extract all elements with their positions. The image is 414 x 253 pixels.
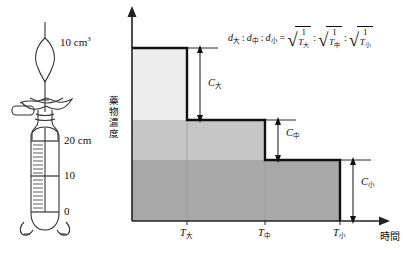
formula-radical-mid: √1T中 [318,26,342,51]
formula-d-mid: d中 [247,32,259,43]
figure-root: 10 cm3 20 cm 10 0 [0,0,414,253]
formula: d大:d中:d小=√1T大:√1T中:√1T小 [228,26,373,51]
y-axis-label: 藥 物 濃 度 [107,96,121,140]
band-low [132,160,340,221]
value-label-c-big: C大 [208,77,222,90]
value-label-c-mid: C中 [286,127,300,140]
label-scale-20: 20 cm [64,134,91,146]
y-axis-label-char: 濃 [107,118,121,129]
tick-label-t-mid: T中 [258,227,271,240]
formula-d-small: d小 [266,32,278,43]
label-top-volume: 10 cm3 [60,35,91,48]
formula-d-big: d大 [228,32,240,43]
formula-colon: : [342,32,349,43]
formula-radical-small: √1T小 [349,26,373,51]
formula-radical-big: √1T大 [287,26,311,51]
band-high [132,48,187,120]
y-axis-arrow [128,6,137,17]
formula-equals: = [278,32,288,43]
tick-label-t-small: T小 [333,227,346,240]
value-label-c-small: C小 [361,176,375,189]
tick-label-t-big: T大 [180,227,193,240]
y-axis-label-char: 度 [107,129,121,140]
formula-colon: : [240,32,247,43]
y-axis-label-char: 藥 [107,96,121,107]
x-axis-arrow [379,217,390,226]
x-axis-label: 時間 [380,228,400,243]
label-scale-10: 10 [64,169,75,181]
measure-arrow-mid [265,117,296,163]
formula-colon: : [311,32,318,43]
measure-arrow-low [340,157,371,224]
formula-colon: : [259,32,266,43]
band-mid [132,120,265,160]
label-scale-0: 0 [64,205,70,217]
y-axis-label-char: 物 [107,107,121,118]
